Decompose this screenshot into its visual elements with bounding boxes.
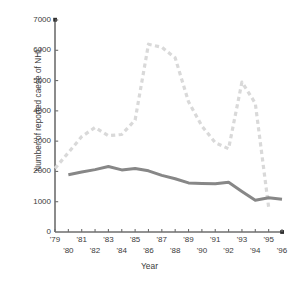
chart-container: Number of reported caese of NHL Year 010… <box>0 0 299 281</box>
series-dashed-series <box>55 44 269 207</box>
series-solid-series <box>68 167 282 201</box>
chart-plot-area <box>0 0 299 281</box>
chart-series-group <box>55 44 282 207</box>
chart-axes <box>53 18 284 234</box>
